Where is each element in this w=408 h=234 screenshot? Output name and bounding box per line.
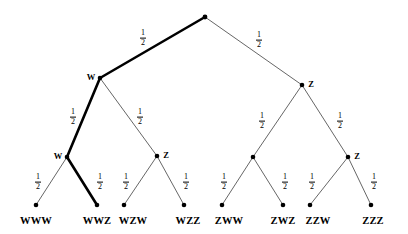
tree-node — [65, 155, 70, 160]
tree-node — [155, 154, 160, 159]
tree-node-root — [203, 15, 208, 20]
tree-canvas — [0, 0, 408, 234]
tree-leaf-node — [182, 203, 187, 208]
tree-leaf-node — [95, 203, 100, 208]
probability-tree-diagram: 1212121212121212121212121212WZWZZWWWWWZW… — [0, 0, 408, 234]
tree-leaf-node — [34, 203, 39, 208]
tree-node — [98, 76, 103, 81]
diagram-background — [0, 0, 408, 234]
tree-node — [346, 155, 351, 160]
tree-node — [300, 83, 305, 88]
tree-leaf-node — [281, 203, 286, 208]
tree-leaf-node — [369, 203, 374, 208]
tree-leaf-node — [122, 203, 127, 208]
tree-leaf-node — [308, 203, 313, 208]
tree-node — [251, 155, 256, 160]
tree-leaf-node — [220, 203, 225, 208]
